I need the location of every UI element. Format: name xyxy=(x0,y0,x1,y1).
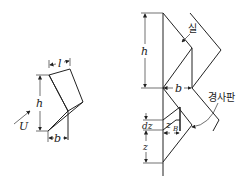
left-figure: h l b U xyxy=(14,57,83,145)
left-l-label: l xyxy=(58,57,62,70)
l-dim-right xyxy=(64,61,69,62)
l-dim-left xyxy=(50,64,56,65)
z-label: z xyxy=(142,142,148,152)
thread-label: 실 xyxy=(188,23,197,34)
right-b-label: b xyxy=(175,82,182,95)
inclined-plate-leader xyxy=(192,103,218,127)
inclined-plate-label: 경사판 xyxy=(208,91,235,103)
diagram-canvas: h l b U h xyxy=(0,0,245,184)
zb-label: z xyxy=(165,120,171,130)
flow-u-label: U xyxy=(19,120,29,133)
left-b-label: b xyxy=(54,132,61,145)
zb-subscript: B xyxy=(172,125,178,133)
left-h-label: h xyxy=(36,97,43,110)
right-figure: h b 실 경사판 dz z z B xyxy=(141,13,235,176)
prism-front-edge xyxy=(49,75,68,111)
inclined-plate-tail xyxy=(213,120,219,131)
prism-top-face xyxy=(49,69,83,111)
right-h-label: h xyxy=(141,45,148,58)
dz-label: dz xyxy=(142,121,153,131)
